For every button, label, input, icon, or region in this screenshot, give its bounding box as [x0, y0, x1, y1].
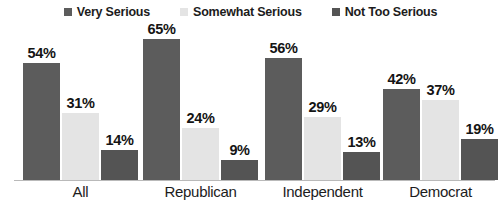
- bar[interactable]: [221, 160, 258, 180]
- bar-column: 19%: [461, 28, 498, 180]
- chart-legend: Very Serious Somewhat Serious Not Too Se…: [0, 6, 501, 19]
- bar[interactable]: [143, 39, 180, 180]
- bar-value-label: 65%: [148, 22, 176, 37]
- bar-column: 14%: [101, 28, 138, 180]
- category-label-all: All: [23, 184, 138, 201]
- bar-value-label: 42%: [388, 72, 416, 87]
- bar[interactable]: [101, 150, 138, 180]
- bar[interactable]: [304, 117, 341, 180]
- bar-column: 29%: [304, 28, 341, 180]
- bar-value-label: 19%: [466, 122, 494, 137]
- legend-label-somewhat-serious: Somewhat Serious: [193, 6, 302, 19]
- bar-column: 13%: [343, 28, 380, 180]
- category-axis: AllRepublicanIndependentDemocrat: [0, 184, 501, 214]
- bar-value-label: 9%: [229, 143, 249, 158]
- bar-group: 54%31%14%: [23, 28, 138, 180]
- legend-swatch-somewhat-serious: [180, 8, 188, 16]
- bar-column: 54%: [23, 28, 60, 180]
- bar-value-label: 13%: [348, 135, 376, 150]
- category-label-independent: Independent: [265, 184, 380, 201]
- legend-label-not-too-serious: Not Too Serious: [345, 6, 438, 19]
- plot-area: 54%31%14%65%24%9%56%29%13%42%37%19%: [0, 28, 501, 181]
- bar-value-label: 14%: [106, 133, 134, 148]
- legend-label-very-serious: Very Serious: [77, 6, 150, 19]
- bar-value-label: 24%: [187, 111, 215, 126]
- bar[interactable]: [422, 100, 459, 180]
- bar[interactable]: [343, 152, 380, 180]
- bar[interactable]: [265, 58, 302, 180]
- bar-group: 42%37%19%: [383, 28, 498, 180]
- bar-column: 42%: [383, 28, 420, 180]
- category-label-republican: Republican: [143, 184, 258, 201]
- legend-swatch-very-serious: [64, 8, 72, 16]
- bar-column: 65%: [143, 28, 180, 180]
- x-axis-baseline: [14, 180, 495, 181]
- bar-column: 24%: [182, 28, 219, 180]
- bar-column: 31%: [62, 28, 99, 180]
- bar[interactable]: [23, 63, 60, 180]
- bar[interactable]: [62, 113, 99, 180]
- bar[interactable]: [461, 139, 498, 180]
- legend-item-not-too-serious[interactable]: Not Too Serious: [332, 6, 438, 19]
- legend-item-very-serious[interactable]: Very Serious: [64, 6, 150, 19]
- legend-swatch-not-too-serious: [332, 8, 340, 16]
- bar-value-label: 56%: [270, 41, 298, 56]
- bar-chart: Very Serious Somewhat Serious Not Too Se…: [0, 0, 501, 220]
- bar-column: 37%: [422, 28, 459, 180]
- bar-value-label: 54%: [28, 46, 56, 61]
- category-label-democrat: Democrat: [383, 184, 498, 201]
- bar-column: 56%: [265, 28, 302, 180]
- legend-item-somewhat-serious[interactable]: Somewhat Serious: [180, 6, 302, 19]
- bar-value-label: 29%: [309, 100, 337, 115]
- bar[interactable]: [383, 89, 420, 180]
- bar-column: 9%: [221, 28, 258, 180]
- bar[interactable]: [182, 128, 219, 180]
- bar-group: 56%29%13%: [265, 28, 380, 180]
- bar-value-label: 31%: [67, 96, 95, 111]
- bar-group: 65%24%9%: [143, 28, 258, 180]
- bar-value-label: 37%: [427, 83, 455, 98]
